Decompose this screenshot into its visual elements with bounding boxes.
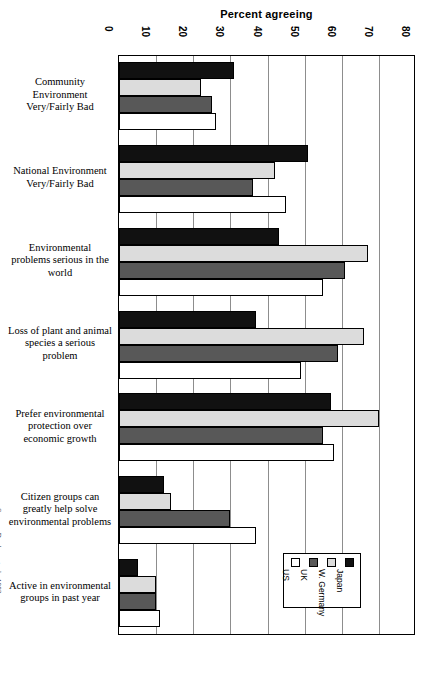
source-note: Source: Dunlap, et. al., 1992: [0, 508, 2, 594]
legend-swatch-uk-icon: [309, 558, 318, 567]
category-label-line: problems serious in the: [6, 254, 114, 267]
bar-w-germany-group-5: [119, 410, 379, 427]
x-tick-70: 70: [363, 26, 374, 37]
category-label-line: Environment: [6, 89, 114, 102]
legend[interactable]: JapanW. GermanyUKUS: [283, 553, 361, 608]
legend-swatch-japan-icon: [345, 558, 354, 567]
category-label-2: National EnvironmentVery/Fairly Bad: [6, 165, 114, 190]
x-tick-80: 80: [400, 26, 411, 37]
category-label-line: Community: [6, 76, 114, 89]
category-label-6: Citizen groups cangreatly help solveenvi…: [6, 491, 114, 529]
bar-w-germany-group-6: [119, 493, 171, 510]
bar-w-germany-group-1: [119, 79, 201, 96]
chart-root: Percent agreeing 01020304050607080 Commu…: [0, 0, 423, 678]
category-label-5: Prefer environmentalprotection overecono…: [6, 408, 114, 446]
plot-area: [118, 55, 415, 635]
bar-uk-group-4: [119, 345, 338, 362]
category-label-line: Prefer environmental: [6, 408, 114, 421]
legend-label: US: [281, 569, 291, 581]
gridline-60: [342, 56, 343, 634]
bar-us-group-2: [119, 196, 286, 213]
bar-japan-group-4: [119, 311, 256, 328]
category-label-line: groups in past year: [6, 592, 114, 605]
bar-us-group-5: [119, 444, 334, 461]
bar-uk-group-7: [119, 593, 156, 610]
category-label-line: Active in environmental: [6, 580, 114, 593]
bar-w-germany-group-7: [119, 576, 156, 593]
bar-us-group-3: [119, 279, 323, 296]
legend-item-w-germany[interactable]: W. Germany: [325, 558, 342, 605]
category-label-line: Environmental: [6, 242, 114, 255]
category-label-line: species a serious: [6, 337, 114, 350]
legend-item-japan[interactable]: Japan: [343, 558, 360, 605]
bar-w-germany-group-4: [119, 328, 364, 345]
bar-w-germany-group-3: [119, 245, 368, 262]
x-tick-30: 30: [214, 26, 225, 37]
category-label-line: problem: [6, 350, 114, 363]
legend-item-us[interactable]: US: [289, 558, 306, 605]
category-label-line: National Environment: [6, 165, 114, 178]
bar-uk-group-6: [119, 510, 230, 527]
x-tick-60: 60: [326, 26, 337, 37]
x-tick-50: 50: [289, 26, 300, 37]
bar-uk-group-1: [119, 96, 212, 113]
bar-uk-group-5: [119, 427, 323, 444]
category-label-line: Very/Fairly Bad: [6, 178, 114, 191]
bar-us-group-7: [119, 610, 160, 627]
category-label-line: Citizen groups can: [6, 491, 114, 504]
category-label-1: CommunityEnvironmentVery/Fairly Bad: [6, 76, 114, 114]
chart-title: Percent agreeing: [118, 8, 415, 20]
x-tick-10: 10: [140, 26, 151, 37]
legend-swatch-wgermany-icon: [327, 558, 336, 567]
bar-japan-group-2: [119, 145, 308, 162]
bar-japan-group-6: [119, 476, 164, 493]
x-tick-0: 0: [103, 26, 114, 32]
category-label-line: greatly help solve: [6, 503, 114, 516]
category-label-line: protection over: [6, 420, 114, 433]
bar-us-group-4: [119, 362, 301, 379]
x-tick-20: 20: [177, 26, 188, 37]
category-label-line: environmental problems: [6, 516, 114, 529]
bar-japan-group-1: [119, 62, 234, 79]
bar-uk-group-2: [119, 179, 253, 196]
category-label-line: Very/Fairly Bad: [6, 101, 114, 114]
category-label-4: Loss of plant and animalspecies a seriou…: [6, 325, 114, 363]
bar-w-germany-group-2: [119, 162, 275, 179]
bar-japan-group-3: [119, 228, 279, 245]
legend-swatch-us-icon: [291, 558, 300, 567]
category-label-line: economic growth: [6, 433, 114, 446]
category-label-7: Active in environmentalgroups in past ye…: [6, 580, 114, 605]
bar-us-group-1: [119, 113, 216, 130]
x-tick-40: 40: [252, 26, 263, 37]
category-label-line: world: [6, 267, 114, 280]
bar-uk-group-3: [119, 262, 345, 279]
category-label-line: Loss of plant and animal: [6, 325, 114, 338]
bar-japan-group-5: [119, 393, 331, 410]
legend-item-uk[interactable]: UK: [307, 558, 324, 605]
bar-us-group-6: [119, 527, 256, 544]
bar-japan-group-7: [119, 559, 138, 576]
gridline-70: [379, 56, 380, 634]
category-label-3: Environmentalproblems serious in theworl…: [6, 242, 114, 280]
